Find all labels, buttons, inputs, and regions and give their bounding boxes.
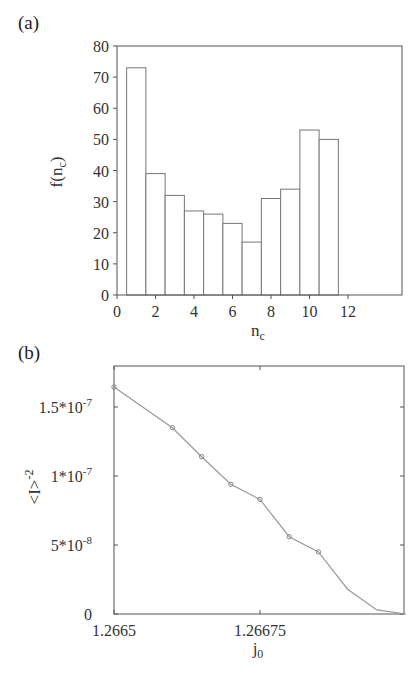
panel-label-b: (b) bbox=[18, 342, 40, 364]
y-axis-title-main: f(n bbox=[47, 167, 66, 187]
histogram-bar bbox=[165, 195, 184, 295]
x-tick-label: 4 bbox=[190, 303, 198, 320]
y-tick-label: 50 bbox=[93, 131, 109, 148]
y-tick-label: 80 bbox=[93, 38, 109, 55]
figure: (a)01020304050607080024681012ncf(nc)(b)0… bbox=[0, 0, 418, 673]
y-tick-label-exp: -8 bbox=[83, 534, 93, 546]
x-tick-label: 2 bbox=[152, 303, 160, 320]
y-tick-label: 60 bbox=[93, 100, 109, 117]
y-tick-label: 0 bbox=[84, 606, 92, 623]
histogram-bar bbox=[319, 139, 338, 295]
y-tick-label: 5*10-8 bbox=[51, 534, 93, 554]
y-tick-label: 20 bbox=[93, 225, 109, 242]
y-axis-title-sup: -2 bbox=[22, 470, 36, 480]
y-tick-label: 10 bbox=[93, 256, 109, 273]
histogram-bars bbox=[127, 68, 339, 295]
panel-a: (a)01020304050607080024681012ncf(nc) bbox=[18, 12, 402, 343]
x-tick-label: 12 bbox=[340, 303, 356, 320]
y-tick-label-exp: -7 bbox=[83, 465, 93, 477]
histogram-bar bbox=[300, 130, 319, 295]
y-tick-label: 1.5*10-7 bbox=[39, 396, 93, 416]
histogram-bar bbox=[184, 211, 203, 295]
y-tick-label: 30 bbox=[93, 194, 109, 211]
panel-label-a: (a) bbox=[18, 12, 39, 34]
histogram-bar bbox=[127, 68, 146, 295]
x-tick-label: 0 bbox=[113, 303, 121, 320]
data-line bbox=[114, 387, 406, 614]
y-tick-label-base: 0 bbox=[84, 606, 92, 623]
histogram-bar bbox=[204, 214, 223, 295]
x-tick-label: 8 bbox=[267, 303, 275, 320]
y-tick-label: 40 bbox=[93, 163, 109, 180]
histogram-bar bbox=[261, 199, 280, 295]
y-tick-label-base: 1.5*10 bbox=[39, 399, 83, 416]
y-tick-label: 1*10-7 bbox=[51, 465, 93, 485]
y-tick-label-exp: -7 bbox=[83, 396, 93, 408]
y-tick-label: 70 bbox=[93, 69, 109, 86]
x-tick-label: 1.26675 bbox=[234, 622, 286, 639]
x-tick-label: 6 bbox=[229, 303, 237, 320]
x-tick-label: 10 bbox=[302, 303, 318, 320]
histogram-bar bbox=[223, 223, 242, 295]
panel-b: (b)05*10-81*10-71.5*10-71.26651.26675j0<… bbox=[18, 342, 406, 661]
x-axis-title: nc bbox=[251, 321, 265, 343]
y-tick-label-base: 1*10 bbox=[51, 468, 83, 485]
x-tick-label: 1.2665 bbox=[92, 622, 136, 639]
histogram-bar bbox=[281, 189, 300, 295]
x-axis-title-sub: 0 bbox=[257, 647, 263, 661]
plot-frame bbox=[114, 366, 404, 614]
y-axis-title: f(nc) bbox=[47, 157, 69, 188]
y-tick-label-base: 5*10 bbox=[51, 537, 83, 554]
y-tick-label: 0 bbox=[101, 287, 109, 304]
histogram-bar bbox=[242, 242, 261, 295]
x-axis-title: j0 bbox=[252, 639, 264, 661]
y-axis-title-main: <I> bbox=[25, 480, 44, 505]
y-axis-title-close: ) bbox=[47, 157, 66, 163]
histogram-bar bbox=[146, 174, 165, 295]
y-axis-title: <I>-2 bbox=[22, 470, 44, 505]
x-axis-title-sub: c bbox=[260, 329, 265, 343]
